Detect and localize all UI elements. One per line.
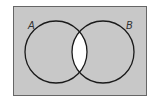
set-b-label: B xyxy=(126,20,133,31)
venn-diagram: A B xyxy=(0,0,154,98)
set-a-label: A xyxy=(27,20,35,31)
